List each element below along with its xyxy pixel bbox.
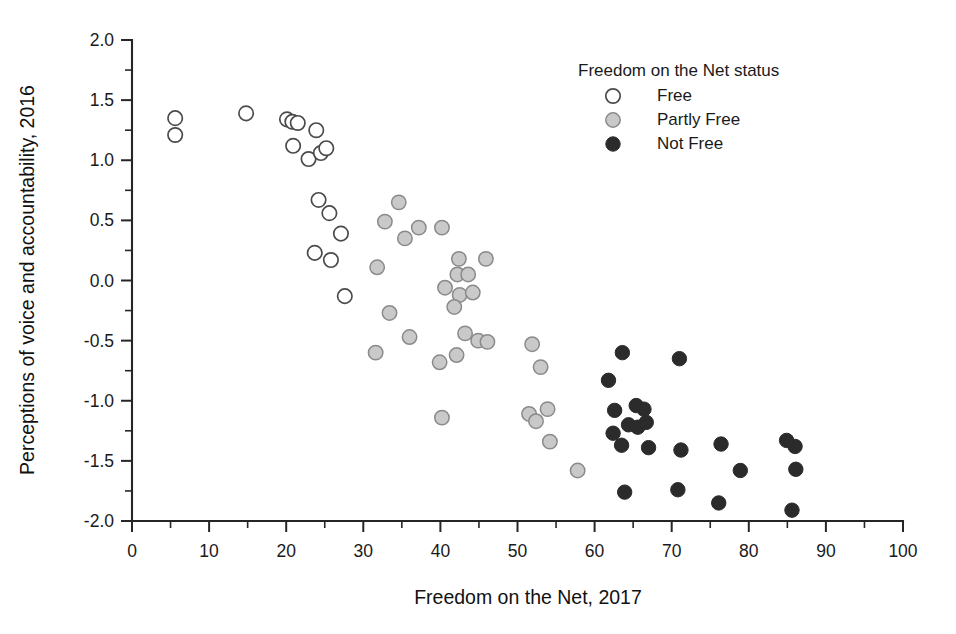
data-point-free xyxy=(338,289,352,303)
x-tick-label: 0 xyxy=(127,541,137,561)
x-tick-label: 100 xyxy=(888,541,917,561)
legend-label: Free xyxy=(657,86,692,105)
x-axis: 0102030405060708090100 xyxy=(127,521,918,561)
legend-marker-not-free xyxy=(606,137,620,151)
data-point-not-free xyxy=(789,462,803,476)
x-tick-label: 50 xyxy=(508,541,528,561)
x-tick-label: 40 xyxy=(431,541,451,561)
y-tick-label: 1.5 xyxy=(90,90,114,110)
data-point-free xyxy=(319,141,333,155)
data-point-partly-free xyxy=(480,335,494,349)
data-point-not-free xyxy=(714,437,728,451)
data-point-partly-free xyxy=(392,195,406,209)
data-point-free xyxy=(168,111,182,125)
legend-marker-partly-free xyxy=(606,113,620,127)
data-point-not-free xyxy=(639,415,653,429)
data-point-not-free xyxy=(617,485,631,499)
data-point-not-free xyxy=(614,438,628,452)
data-point-not-free xyxy=(671,483,685,497)
data-point-not-free xyxy=(733,463,747,477)
data-point-partly-free xyxy=(479,252,493,266)
data-point-not-free xyxy=(788,439,802,453)
data-point-partly-free xyxy=(543,434,557,448)
data-points-layer xyxy=(168,106,803,517)
data-point-partly-free xyxy=(438,281,452,295)
data-point-partly-free xyxy=(540,402,554,416)
data-point-partly-free xyxy=(461,267,475,281)
data-point-partly-free xyxy=(525,337,539,351)
y-tick-label: -1.5 xyxy=(84,451,114,471)
data-point-partly-free xyxy=(370,260,384,274)
data-point-not-free xyxy=(637,402,651,416)
series-not-free xyxy=(601,345,803,517)
x-tick-label: 70 xyxy=(662,541,682,561)
chart-legend: Freedom on the Net statusFreePartly Free… xyxy=(578,61,779,153)
data-point-not-free xyxy=(641,440,655,454)
series-free xyxy=(168,106,352,303)
data-point-partly-free xyxy=(378,214,392,228)
data-point-partly-free xyxy=(435,220,449,234)
legend-title: Freedom on the Net status xyxy=(578,61,779,80)
legend-item-partly-free[interactable]: Partly Free xyxy=(606,110,740,129)
data-point-free xyxy=(311,193,325,207)
y-axis: 2.01.51.00.50.0-0.5-1.0-1.5-2.0 xyxy=(84,30,132,531)
data-point-partly-free xyxy=(570,463,584,477)
data-point-partly-free xyxy=(432,355,446,369)
scatter-plot-figure: 2.01.51.00.50.0-0.5-1.0-1.5-2.0 01020304… xyxy=(0,0,956,634)
data-point-free xyxy=(168,128,182,142)
data-point-partly-free xyxy=(398,231,412,245)
data-point-not-free xyxy=(712,496,726,510)
data-point-partly-free xyxy=(402,330,416,344)
x-tick-label: 90 xyxy=(816,541,836,561)
data-point-partly-free xyxy=(412,220,426,234)
x-tick-label: 80 xyxy=(739,541,759,561)
legend-label: Not Free xyxy=(657,134,723,153)
legend-marker-free xyxy=(606,89,620,103)
data-point-free xyxy=(334,226,348,240)
data-point-partly-free xyxy=(449,348,463,362)
data-point-not-free xyxy=(672,351,686,365)
data-point-not-free xyxy=(615,345,629,359)
x-axis-title: Freedom on the Net, 2017 xyxy=(414,586,642,608)
data-point-not-free xyxy=(674,443,688,457)
x-tick-label: 10 xyxy=(199,541,219,561)
data-point-free xyxy=(291,116,305,130)
y-tick-label: -0.5 xyxy=(84,331,114,351)
y-axis-title: Perceptions of voice and accountability,… xyxy=(16,85,38,475)
data-point-partly-free xyxy=(529,414,543,428)
data-point-free xyxy=(308,246,322,260)
y-tick-label: 2.0 xyxy=(90,30,115,50)
data-point-partly-free xyxy=(533,360,547,374)
x-tick-label: 20 xyxy=(276,541,296,561)
series-partly-free xyxy=(368,195,584,478)
legend-label: Partly Free xyxy=(657,110,740,129)
y-tick-label: 0.5 xyxy=(90,210,114,230)
data-point-free xyxy=(286,139,300,153)
y-tick-label: -1.0 xyxy=(84,391,114,411)
data-point-partly-free xyxy=(452,252,466,266)
data-point-partly-free xyxy=(382,306,396,320)
y-tick-label: -2.0 xyxy=(84,511,114,531)
x-tick-label: 30 xyxy=(354,541,374,561)
data-point-partly-free xyxy=(368,345,382,359)
data-point-not-free xyxy=(601,373,615,387)
data-point-not-free xyxy=(607,403,621,417)
data-point-not-free xyxy=(606,426,620,440)
data-point-free xyxy=(322,206,336,220)
data-point-partly-free xyxy=(458,326,472,340)
y-tick-label: 1.0 xyxy=(90,150,115,170)
y-tick-label: 0.0 xyxy=(90,271,115,291)
legend-item-free[interactable]: Free xyxy=(606,86,692,105)
data-point-free xyxy=(324,253,338,267)
chart-canvas: 2.01.51.00.50.0-0.5-1.0-1.5-2.0 01020304… xyxy=(0,0,956,634)
data-point-partly-free xyxy=(447,300,461,314)
data-point-not-free xyxy=(785,503,799,517)
data-point-partly-free xyxy=(435,410,449,424)
x-tick-label: 60 xyxy=(585,541,605,561)
data-point-free xyxy=(239,106,253,120)
data-point-free xyxy=(309,123,323,137)
legend-item-not-free[interactable]: Not Free xyxy=(606,134,723,153)
data-point-partly-free xyxy=(466,285,480,299)
